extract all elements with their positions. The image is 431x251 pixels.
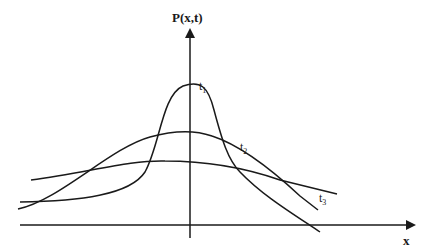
curve-t1 [20, 84, 320, 232]
curve-label-t2: t2 [240, 140, 247, 156]
diagram-canvas: P(x,t) x t1 t2 t3 [0, 0, 431, 251]
curve-t2 [18, 132, 318, 210]
curve-t3 [31, 161, 337, 194]
y-axis-label: P(x,t) [172, 10, 203, 25]
curve-label-t3: t3 [319, 191, 326, 207]
curve-label-t1: t1 [199, 79, 206, 95]
x-axis-label: x [403, 233, 410, 248]
